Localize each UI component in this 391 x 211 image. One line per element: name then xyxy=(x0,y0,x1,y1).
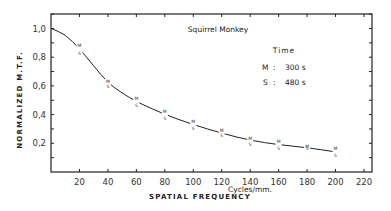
point-s: S xyxy=(135,103,138,108)
plot-border xyxy=(51,14,372,172)
y-tick-label: 0,6 xyxy=(32,81,46,91)
axis-ticks: 204060801001201401601802002200,20,40,60,… xyxy=(32,14,372,187)
y-tick-label: 1,0 xyxy=(32,24,46,34)
point-m: M xyxy=(220,128,224,133)
x-tick-label: 80 xyxy=(159,177,170,187)
y-tick-label: 0,4 xyxy=(32,110,46,120)
mtf-chart: 204060801001201401601802002200,20,40,60,… xyxy=(0,0,391,211)
point-m: M xyxy=(191,119,195,124)
point-s: S xyxy=(220,133,223,138)
legend-marker-s: S xyxy=(263,78,268,87)
legend-marker-m: M xyxy=(262,63,268,72)
x-tick-label: 160 xyxy=(271,177,287,187)
point-s: S xyxy=(78,51,81,56)
legend-sep-m: : xyxy=(273,63,276,72)
point-s: S xyxy=(106,84,109,89)
x-tick-label: 60 xyxy=(131,177,142,187)
point-s: S xyxy=(163,116,166,121)
legend-sep-s: : xyxy=(273,78,276,87)
x-axis-title: SPATIAL FREQUENCY xyxy=(149,193,251,201)
x-tick-label: 100 xyxy=(185,177,201,187)
plot-frame xyxy=(51,14,372,172)
y-tick-label: 0,8 xyxy=(32,52,46,62)
x-tick-label: 220 xyxy=(356,177,372,187)
point-s: S xyxy=(192,126,195,131)
point-m: M xyxy=(163,109,167,114)
chart-title: Squirrel Monkey xyxy=(188,25,249,34)
point-m: M xyxy=(277,139,281,144)
point-s: S xyxy=(334,153,337,158)
legend-value-s: 480 s xyxy=(285,78,306,87)
point-m: M xyxy=(248,136,252,141)
point-m: M xyxy=(106,79,110,84)
y-tick-label: 0,2 xyxy=(32,138,46,148)
point-s: S xyxy=(306,146,309,151)
legend-title: Time xyxy=(272,46,295,55)
point-m: M xyxy=(134,96,138,101)
point-m: M xyxy=(334,146,338,151)
data-points: MSMSMSMSMSMSMSMSMSMS xyxy=(76,43,338,158)
point-s: S xyxy=(249,142,252,147)
x-tick-label: 20 xyxy=(74,177,85,187)
y-axis-title: NORMALIZED M.T.F. xyxy=(16,51,24,149)
point-s: S xyxy=(277,146,280,151)
x-tick-label: 200 xyxy=(327,177,343,187)
x-tick-label: 180 xyxy=(299,177,315,187)
legend-value-m: 300 s xyxy=(285,63,306,72)
x-tick-label: 40 xyxy=(102,177,113,187)
point-m: M xyxy=(78,43,82,48)
